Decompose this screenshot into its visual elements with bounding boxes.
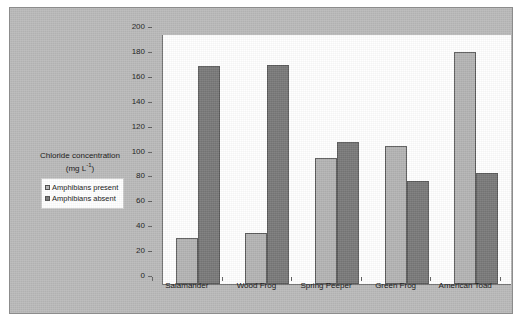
bar-absent bbox=[267, 65, 289, 284]
y-tick-mark bbox=[148, 27, 152, 28]
y-tick-mark bbox=[148, 102, 152, 103]
x-tick-mark bbox=[152, 277, 153, 281]
x-tick-mark bbox=[430, 277, 431, 281]
y-tick-mark bbox=[148, 52, 152, 53]
y-tick-label: 60 bbox=[121, 197, 145, 205]
y-tick-mark bbox=[148, 77, 152, 78]
y-tick-mark bbox=[148, 127, 152, 128]
bar-absent bbox=[337, 142, 359, 284]
legend-label-present: Amphibians present bbox=[52, 182, 118, 193]
bar-present bbox=[454, 52, 476, 284]
y-tick-label: 200 bbox=[121, 23, 145, 31]
y-tick-mark bbox=[148, 201, 152, 202]
bar-absent bbox=[198, 66, 220, 284]
legend-label-absent: Amphibians absent bbox=[52, 193, 116, 204]
bars-layer bbox=[163, 35, 510, 284]
x-tick-mark bbox=[222, 277, 223, 281]
bar-present bbox=[315, 158, 337, 284]
y-tick-label: 180 bbox=[121, 48, 145, 56]
y-tick-label: 20 bbox=[121, 247, 145, 255]
y-tick-label: 0 bbox=[121, 272, 145, 280]
bar-absent bbox=[476, 173, 498, 284]
y-tick-label: 140 bbox=[121, 98, 145, 106]
legend-swatch-present bbox=[45, 185, 50, 190]
x-tick-mark bbox=[500, 277, 501, 281]
y-tick-label: 120 bbox=[121, 123, 145, 131]
chart-figure: 020406080100120140160180200 Chloride con… bbox=[0, 0, 524, 322]
y-tick-mark bbox=[148, 152, 152, 153]
y-tick-label: 40 bbox=[121, 222, 145, 230]
legend-item-present: Amphibians present bbox=[45, 182, 118, 193]
legend-item-absent: Amphibians absent bbox=[45, 193, 118, 204]
bar-present bbox=[385, 146, 407, 284]
bar-absent bbox=[407, 181, 429, 284]
y-tick-mark bbox=[148, 176, 152, 177]
y-axis-title-main: Chloride concentration bbox=[40, 151, 120, 160]
x-tick-mark bbox=[361, 277, 362, 281]
y-tick-mark bbox=[148, 226, 152, 227]
y-tick-label: 160 bbox=[121, 73, 145, 81]
bar-present bbox=[176, 238, 198, 284]
bar-present bbox=[245, 233, 267, 284]
x-tick-label: American Toad bbox=[405, 281, 524, 290]
legend-swatch-absent bbox=[45, 196, 50, 201]
chart-legend: Amphibians present Amphibians absent bbox=[41, 178, 124, 209]
y-tick-mark bbox=[148, 251, 152, 252]
y-axis-title-units: (mg L-1) bbox=[66, 164, 94, 173]
x-tick-mark bbox=[291, 277, 292, 281]
y-axis-title: Chloride concentration (mg L-1) bbox=[18, 151, 142, 175]
chart-panel: 020406080100120140160180200 Chloride con… bbox=[9, 7, 513, 314]
